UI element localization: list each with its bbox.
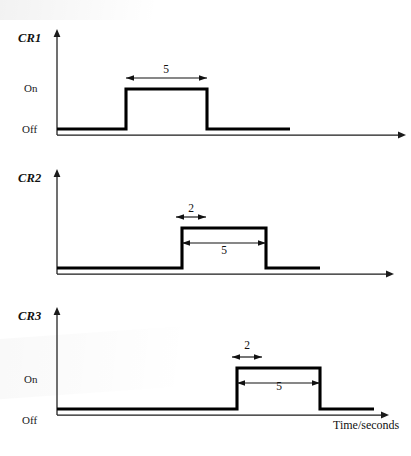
panel-cr1-graphics <box>0 0 411 152</box>
panel-cr3-graphics <box>0 292 411 456</box>
panel-cr1: CR1 On Off 5 <box>0 0 411 152</box>
panel-cr3: CR3 On Off 2 5 Time/seconds <box>0 292 411 456</box>
x-axis-arrowhead-cr3 <box>381 411 389 418</box>
waveform-cr3 <box>57 368 374 409</box>
y-axis-arrowhead-cr3 <box>54 307 61 315</box>
waveform-cr1 <box>57 89 290 129</box>
waveform-cr2 <box>57 228 320 268</box>
axes-cr3 <box>54 307 389 419</box>
x-axis-arrowhead-cr1 <box>398 131 406 138</box>
timing-diagram-figure: CR1 On Off 5 CR2 On Off 2 <box>0 0 411 456</box>
panel-cr2: CR2 On Off 2 5 <box>0 152 411 292</box>
dimension-cr2-delay <box>176 214 206 219</box>
dimension-cr3-width <box>237 380 320 385</box>
y-axis-arrowhead-cr1 <box>54 29 61 37</box>
panel-cr2-graphics <box>0 152 411 292</box>
axes-cr1 <box>54 29 406 139</box>
x-axis-arrowhead-cr2 <box>386 270 394 277</box>
dimension-cr3-delay <box>232 354 262 359</box>
axes-cr2 <box>54 169 394 278</box>
y-axis-arrowhead-cr2 <box>54 169 61 177</box>
dimension-cr2-width <box>182 240 266 245</box>
dimension-cr1-width <box>126 75 207 80</box>
